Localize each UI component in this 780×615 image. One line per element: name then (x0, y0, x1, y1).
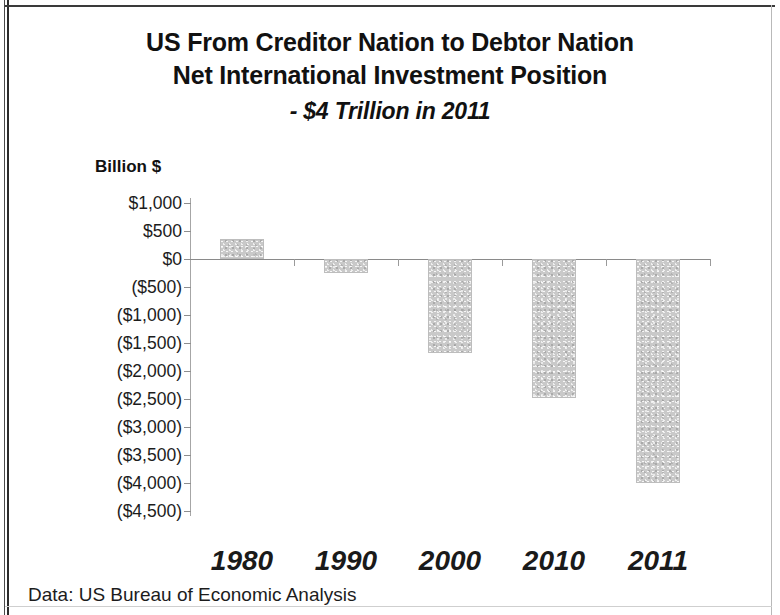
y-axis-tick-mark (184, 287, 191, 288)
x-axis-tick-mark (502, 259, 503, 266)
y-axis-tick-mark (184, 511, 191, 512)
y-axis-tick-mark (184, 315, 191, 316)
x-axis-tick-mark (294, 259, 295, 266)
x-axis-tick-mark (710, 259, 711, 266)
source-note: Data: US Bureau of Economic Analysis (28, 584, 356, 606)
bar (220, 239, 264, 259)
y-axis-tick-label: ($4,500) (72, 501, 182, 522)
y-axis-tick-label: ($3,500) (72, 445, 182, 466)
bar (324, 259, 368, 273)
y-axis-tick-mark (184, 455, 191, 456)
y-axis-tick-label: ($1,500) (72, 333, 182, 354)
y-axis-tick-mark (184, 203, 191, 204)
y-axis-tick-label: ($4,000) (72, 473, 182, 494)
y-axis-tick-label: ($500) (72, 277, 182, 298)
y-axis-tick-mark (184, 399, 191, 400)
bar (532, 259, 576, 398)
y-axis-tick-mark (184, 231, 191, 232)
x-axis-tick-mark (398, 259, 399, 266)
plot-area: $1,000$500$0($500)($1,000)($1,500)($2,00… (0, 0, 780, 615)
y-axis-tick-mark (184, 427, 191, 428)
y-axis-tick-label: ($2,000) (72, 361, 182, 382)
x-axis-category-label: 2000 (419, 545, 481, 577)
y-axis-tick-mark (184, 483, 191, 484)
y-axis-line (190, 198, 191, 516)
x-axis-tick-mark (606, 259, 607, 266)
x-axis-category-label: 2011 (628, 545, 688, 577)
x-axis-category-label: 1980 (211, 545, 273, 577)
bar (428, 259, 472, 353)
y-axis-tick-label: ($2,500) (72, 389, 182, 410)
y-axis-tick-mark (184, 343, 191, 344)
bar (636, 259, 680, 483)
y-axis-tick-label: $0 (72, 249, 182, 270)
slide-canvas: US From Creditor Nation to Debtor Nation… (0, 0, 780, 615)
y-axis-tick-label: $1,000 (72, 193, 182, 214)
x-axis-category-label: 1990 (315, 545, 377, 577)
y-axis-tick-label: ($1,000) (72, 305, 182, 326)
x-axis-category-label: 2010 (523, 545, 585, 577)
y-axis-tick-label: $500 (72, 221, 182, 242)
y-axis-tick-label: ($3,000) (72, 417, 182, 438)
y-axis-tick-mark (184, 371, 191, 372)
